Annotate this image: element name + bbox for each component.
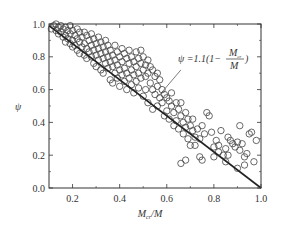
- data-point: [241, 162, 247, 168]
- equation-prefix: ψ =1.1(1−: [178, 53, 221, 65]
- data-point: [185, 136, 191, 142]
- y-tick-label: 0.0: [33, 183, 46, 194]
- data-point: [189, 116, 195, 122]
- data-point: [201, 131, 207, 137]
- data-point: [253, 137, 259, 143]
- x-tick-label: 0.8: [208, 193, 221, 204]
- data-point: [147, 80, 153, 86]
- scatter-chart: 0.20.40.60.81.00.00.20.40.60.81.0 Mcr/M …: [0, 0, 281, 230]
- scatter-points: [48, 21, 259, 172]
- data-point: [126, 47, 132, 53]
- data-point: [175, 106, 181, 112]
- data-point: [116, 83, 122, 89]
- data-point: [251, 159, 257, 165]
- data-point: [208, 129, 214, 135]
- x-tick-label: 0.2: [66, 193, 79, 204]
- data-point: [180, 131, 186, 137]
- data-point: [199, 122, 205, 128]
- data-point: [182, 157, 188, 163]
- x-tick-label: 1.0: [255, 193, 268, 204]
- data-point: [154, 83, 160, 89]
- annotation-pointer: [159, 70, 181, 96]
- data-point: [135, 85, 141, 91]
- equation-numerator: Mcr: [228, 47, 242, 59]
- data-point: [182, 109, 188, 115]
- x-axis-title: Mcr/M: [137, 208, 163, 220]
- y-axis-title: ψ: [15, 101, 22, 112]
- data-point: [178, 100, 184, 106]
- data-point: [157, 77, 163, 83]
- data-point: [178, 160, 184, 166]
- equation-denominator: M: [229, 60, 239, 71]
- data-point: [168, 90, 174, 96]
- y-tick-label: 0.8: [33, 51, 46, 62]
- data-point: [237, 147, 243, 153]
- data-point: [171, 109, 177, 115]
- fit-equation-label: ψ =1.1(1− Mcr M ): [178, 47, 249, 71]
- data-point: [192, 142, 198, 148]
- data-point: [178, 113, 184, 119]
- y-tick-label: 0.6: [33, 84, 46, 95]
- data-point: [112, 42, 118, 48]
- y-tick-label: 0.2: [33, 150, 46, 161]
- equation-suffix: ): [244, 53, 249, 65]
- y-tick-label: 0.4: [33, 117, 46, 128]
- y-tick-label: 1.0: [33, 19, 46, 30]
- x-tick-label: 0.4: [113, 193, 126, 204]
- data-point: [218, 127, 224, 133]
- data-point: [142, 86, 148, 92]
- data-point: [222, 145, 228, 151]
- data-point: [133, 78, 139, 84]
- data-point: [237, 122, 243, 128]
- x-tick-label: 0.6: [161, 193, 174, 204]
- data-point: [225, 152, 231, 158]
